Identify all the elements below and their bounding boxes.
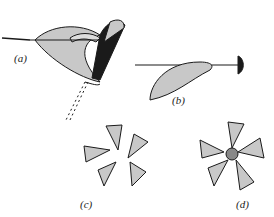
diagram-art xyxy=(0,0,274,217)
panel-a-art xyxy=(2,20,125,120)
panel-b-art xyxy=(135,56,243,100)
panel-b-label: (b) xyxy=(172,94,185,106)
panel-c-label: (c) xyxy=(80,198,92,210)
panel-d-label: (d) xyxy=(236,198,249,210)
panel-c-art xyxy=(84,125,148,186)
panel-a-label: (a) xyxy=(14,52,27,64)
figure: (a) (b) (c) (d) xyxy=(0,0,274,217)
panel-d-art xyxy=(200,122,264,190)
